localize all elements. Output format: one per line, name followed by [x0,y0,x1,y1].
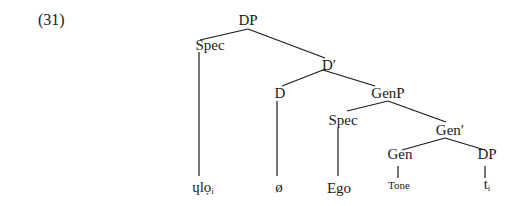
leaf-spec-outer-base: ɥlọ [192,179,211,195]
node-dp-root: DP [238,13,257,28]
node-gen-head: Gen [388,147,413,162]
node-d-bar: D′ [322,58,336,73]
leaf-ego: Ego [327,181,351,196]
node-spec-outer: Spec [195,38,224,53]
leaf-spec-outer-index: i [211,186,214,196]
leaf-tone: Tone [388,180,410,191]
node-dp-inner: DP [477,147,496,162]
node-d-head: D [275,86,286,101]
leaf-trace: ti [484,177,491,196]
node-spec-inner: Spec [328,113,357,128]
node-genp: GenP [371,86,404,101]
node-gen-bar: Gen′ [436,123,464,138]
leaf-spec-outer: ɥlọi [192,180,214,199]
leaf-trace-index: i [488,183,491,193]
tree-branches [0,0,518,206]
example-number: (31) [38,12,65,28]
leaf-d-null: ø [275,180,283,195]
